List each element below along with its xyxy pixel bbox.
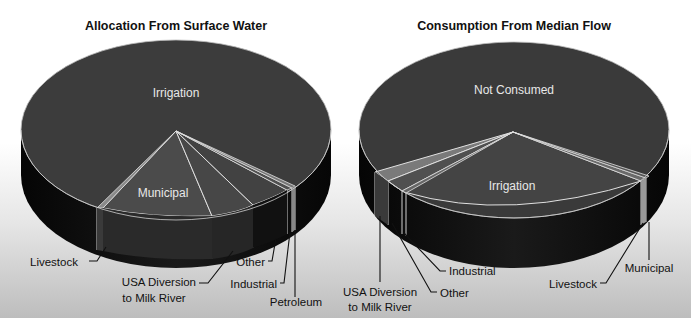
label-not-consumed: Not Consumed [474, 83, 554, 97]
callout-usa-diversion-line1: USA Diversion [343, 286, 417, 298]
charts-canvas: Allocation From Surface Water Irrigation… [0, 0, 691, 318]
callout-industrial: Industrial [449, 265, 496, 277]
callout-other: Other [236, 256, 265, 268]
callout-industrial: Industrial [230, 278, 277, 290]
label-municipal: Municipal [138, 186, 189, 200]
pie-allocation: Allocation From Surface Water Irrigation… [21, 19, 331, 308]
callout-other: Other [440, 287, 469, 299]
callout-usa-diversion-line1: USA Diversion [122, 276, 196, 288]
callout-usa-diversion-line2: to Milk River [348, 301, 411, 313]
chart-title-allocation: Allocation From Surface Water [85, 19, 267, 33]
label-irrigation: Irrigation [489, 179, 536, 193]
pie-consumption: Consumption From Median Flow Not Consume… [343, 19, 673, 313]
label-irrigation: Irrigation [153, 86, 200, 100]
callout-municipal: Municipal [625, 262, 674, 274]
callout-livestock: Livestock [549, 278, 597, 290]
callout-livestock: Livestock [30, 256, 78, 268]
chart-title-consumption: Consumption From Median Flow [417, 19, 611, 33]
callout-usa-diversion-line2: to Milk River [122, 292, 185, 304]
callout-petroleum: Petroleum [270, 296, 322, 308]
